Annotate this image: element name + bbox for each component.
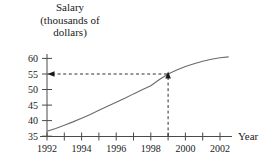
salary-line-chart-figure: Salary (thousands of dollars) 60 55 50 4… (0, 0, 278, 162)
x-tick-label-1992: 1992 (37, 143, 57, 154)
y-tick-label-40: 40 (28, 115, 38, 126)
y-tick-label-50: 50 (28, 84, 38, 95)
y-tick-label-60: 60 (28, 53, 38, 64)
salary-data-curve (47, 57, 229, 131)
x-tick-label-2000: 2000 (175, 143, 195, 154)
x-tick-label-1994: 1994 (72, 143, 92, 154)
x-axis-tick-labels: 1992 1994 1996 1998 2000 2002 (37, 143, 230, 154)
x-tick-label-1996: 1996 (106, 143, 126, 154)
x-axis-label: Year (238, 130, 259, 142)
horizontal-guide-arrowhead-icon (48, 71, 55, 77)
y-tick-label-55: 55 (28, 69, 38, 80)
x-tick-label-1998: 1998 (141, 143, 161, 154)
y-axis-tick-labels: 60 55 50 45 40 35 (28, 53, 38, 142)
chart-plot-area: 60 55 50 45 40 35 1992 1994 1996 1998 (0, 0, 278, 162)
y-tick-label-35: 35 (28, 131, 38, 142)
x-tick-label-2002: 2002 (210, 143, 230, 154)
y-tick-label-45: 45 (28, 100, 38, 111)
